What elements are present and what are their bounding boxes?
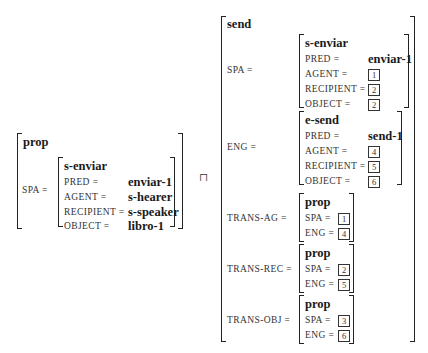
trans-obj-spa-tag: 3 [338, 315, 350, 327]
trans-rec-eng-label: ENG = [305, 280, 334, 290]
spa-agent-label: AGENT = [305, 70, 348, 80]
trans-rec-type: prop [305, 247, 330, 260]
left-recipient-label: RECIPIENT = [64, 208, 125, 218]
left-type: prop [23, 136, 48, 149]
spa-bracket-close [404, 34, 409, 108]
left-inner-type: s-enviar [64, 160, 107, 173]
trans-obj-eng-label: ENG = [305, 331, 334, 341]
left-object-label: OBJECT = [64, 222, 110, 232]
left-outer-bracket-open [17, 133, 22, 229]
left-agent-value: s-hearer [128, 191, 172, 204]
right-type: send [227, 18, 251, 31]
trans-ag-eng-label: ENG = [305, 229, 334, 239]
right-spa-label: SPA = [227, 66, 253, 76]
spa-recipient-tag: 2 [368, 84, 380, 96]
left-object-value: libro-1 [128, 220, 164, 233]
trans-obj-eng-tag: 6 [338, 330, 350, 342]
trans-rec-spa-label: SPA = [305, 265, 331, 275]
spa-pred-value: enviar-1 [368, 53, 412, 66]
eng-bracket-close [397, 111, 402, 185]
trans-rec-eng-tag: 5 [338, 279, 350, 291]
trans-obj-bracket-open [299, 295, 304, 344]
eng-recipient-tag: 5 [368, 161, 380, 173]
left-recipient-value: s-speaker [128, 206, 179, 219]
trans-ag-spa-label: SPA = [305, 214, 331, 224]
eng-pred-value: send-1 [368, 130, 403, 143]
spa-agent-tag: 1 [368, 69, 380, 81]
eng-recipient-label: RECIPIENT = [305, 162, 366, 172]
left-pred-label: PRED = [64, 178, 98, 188]
right-outer-bracket-open [221, 16, 226, 342]
spa-object-label: OBJECT = [305, 100, 351, 110]
eng-agent-tag: 4 [368, 146, 380, 158]
spa-type: s-enviar [305, 37, 348, 50]
spa-object-tag: 2 [368, 99, 380, 111]
spa-bracket-open [299, 34, 304, 108]
eng-bracket-open [299, 111, 304, 185]
left-spa-label: SPA = [22, 186, 48, 196]
eng-agent-label: AGENT = [305, 147, 348, 157]
eng-object-label: OBJECT = [305, 177, 351, 187]
unification-operator: ⊓ [199, 171, 208, 184]
eng-pred-label: PRED = [305, 132, 339, 142]
left-agent-label: AGENT = [64, 193, 107, 203]
eng-object-tag: 6 [368, 176, 380, 188]
trans-ag-type: prop [305, 196, 330, 209]
left-inner-bracket-open [58, 157, 63, 227]
spa-recipient-label: RECIPIENT = [305, 85, 366, 95]
trans-ag-eng-tag: 4 [338, 228, 350, 240]
trans-obj-type: prop [305, 298, 330, 311]
trans-ag-spa-tag: 1 [338, 213, 350, 225]
trans-rec-spa-tag: 2 [338, 264, 350, 276]
right-eng-label: ENG = [227, 143, 256, 153]
eng-type: e-send [305, 114, 339, 127]
trans-rec-label: TRANS-REC = [227, 265, 292, 275]
spa-pred-label: PRED = [305, 55, 339, 65]
trans-obj-label: TRANS-OBJ = [227, 316, 290, 326]
trans-rec-bracket-open [299, 244, 304, 293]
trans-obj-spa-label: SPA = [305, 316, 331, 326]
trans-ag-label: TRANS-AG = [227, 214, 287, 224]
left-pred-value: enviar-1 [128, 176, 172, 189]
trans-ag-bracket-open [299, 193, 304, 242]
